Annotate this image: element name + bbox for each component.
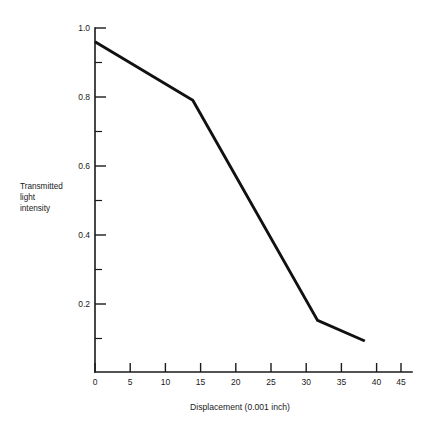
x-tick-label: 45 [396, 377, 406, 387]
x-tick-label: 25 [266, 377, 276, 387]
y-tick-label: 0.2 [78, 299, 90, 309]
y-tick-label: 0.6 [78, 161, 90, 171]
x-tick-label: 5 [128, 377, 133, 387]
chart-background [0, 0, 434, 428]
x-tick-label: 0 [93, 377, 98, 387]
x-tick-label: 10 [161, 377, 171, 387]
x-axis-label: Displacement (0.001 inch) [190, 402, 290, 412]
y-tick-label: 0.4 [78, 230, 90, 240]
chart-figure: 1.0 0.8 0.6 0.4 0.2 0 5 10 15 20 25 30 3… [0, 0, 434, 428]
x-tick-label: 20 [231, 377, 241, 387]
y-tick-label: 0.8 [78, 92, 90, 102]
y-axis-label-line-1: Transmitted [20, 182, 63, 191]
x-tick-label: 30 [301, 377, 311, 387]
y-tick-label: 1.0 [78, 23, 90, 33]
x-tick-label: 15 [196, 377, 206, 387]
x-tick-label: 40 [372, 377, 382, 387]
y-axis-label-line-3: intensity [20, 204, 51, 213]
x-tick-label: 35 [337, 377, 347, 387]
y-axis-label-line-2: light [20, 193, 36, 202]
